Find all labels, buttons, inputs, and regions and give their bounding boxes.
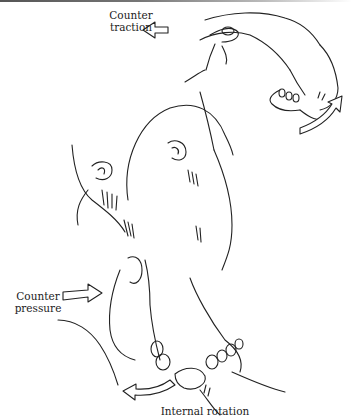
label-line: Counter [10,290,66,302]
counter-traction-label: Counter traction [96,9,166,33]
label-line: pressure [10,302,66,314]
internal-rotation-label: Internal rotation [145,405,265,417]
bent-leg [72,70,233,270]
counter-pressure-arrow [63,284,102,302]
raised-leg [200,13,338,120]
label-line: traction [96,21,166,33]
internal-rotation-arrow [123,380,175,400]
leg-illustration [0,0,352,420]
foot-and-hand [58,257,285,415]
label-line: Counter [96,9,166,21]
counter-pressure-label: Counter pressure [10,290,66,314]
